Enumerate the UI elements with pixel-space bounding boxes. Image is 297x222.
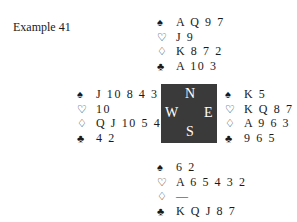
east-hearts-row: ♡K Q 8 7 — [225, 102, 294, 117]
north-clubs: A 10 3 — [176, 59, 218, 74]
west-spades: J 10 8 4 3 — [96, 87, 159, 102]
south-spades: 6 2 — [176, 160, 196, 175]
south-spades-row: ♠6 2 — [157, 160, 247, 175]
north-diamonds: K 8 7 2 — [176, 44, 223, 59]
north-diamonds-row: ♢K 8 7 2 — [157, 44, 225, 59]
diamond-icon: ♢ — [157, 189, 176, 204]
north-clubs-row: ♣A 10 3 — [157, 59, 225, 74]
spade-icon: ♠ — [157, 160, 176, 175]
south-diamonds-row: ♢— — [157, 189, 247, 204]
south-hearts: A 6 5 4 3 2 — [176, 175, 247, 190]
west-clubs: 4 2 — [96, 131, 116, 146]
east-clubs-row: ♣9 6 5 — [225, 131, 294, 146]
spade-icon: ♠ — [77, 87, 96, 102]
diamond-icon: ♢ — [157, 44, 176, 59]
hand-north: ♠A Q 9 7 ♡J 9 ♢K 8 7 2 ♣A 10 3 — [157, 15, 225, 73]
spade-icon: ♠ — [225, 87, 244, 102]
hand-east: ♠K 5 ♡K Q 8 7 ♢A 9 6 3 ♣9 6 5 — [225, 87, 294, 145]
heart-icon: ♡ — [157, 30, 176, 45]
heart-icon: ♡ — [225, 102, 244, 117]
compass-west: W — [165, 105, 178, 121]
east-hearts: K Q 8 7 — [244, 102, 294, 117]
west-spades-row: ♠J 10 8 4 3 — [77, 87, 161, 102]
heart-icon: ♡ — [157, 175, 176, 190]
club-icon: ♣ — [157, 204, 176, 219]
east-diamonds: A 9 6 3 — [244, 116, 290, 131]
north-spades-row: ♠A Q 9 7 — [157, 15, 225, 30]
north-hearts: J 9 — [176, 30, 194, 45]
compass-box: N W E S — [161, 84, 217, 143]
south-hearts-row: ♡A 6 5 4 3 2 — [157, 175, 247, 190]
east-clubs: 9 6 5 — [244, 131, 276, 146]
compass-east: E — [204, 105, 213, 121]
club-icon: ♣ — [157, 59, 176, 74]
hand-west: ♠J 10 8 4 3 ♡10 ♢Q J 10 5 4 ♣4 2 — [77, 87, 161, 145]
heart-icon: ♡ — [77, 102, 96, 117]
spade-icon: ♠ — [157, 15, 176, 30]
west-clubs-row: ♣4 2 — [77, 131, 161, 146]
east-diamonds-row: ♢A 9 6 3 — [225, 116, 294, 131]
south-diamonds: — — [176, 189, 190, 204]
club-icon: ♣ — [77, 131, 96, 146]
south-clubs: K Q J 8 7 — [176, 204, 236, 219]
compass-north: N — [185, 86, 195, 102]
compass-south: S — [186, 124, 194, 140]
diamond-icon: ♢ — [77, 116, 96, 131]
south-clubs-row: ♣K Q J 8 7 — [157, 204, 247, 219]
club-icon: ♣ — [225, 131, 244, 146]
example-title: Example 41 — [13, 20, 71, 35]
east-spades-row: ♠K 5 — [225, 87, 294, 102]
west-hearts-row: ♡10 — [77, 102, 161, 117]
diamond-icon: ♢ — [225, 116, 244, 131]
north-spades: A Q 9 7 — [176, 15, 225, 30]
west-hearts: 10 — [96, 102, 111, 117]
east-spades: K 5 — [244, 87, 266, 102]
west-diamonds: Q J 10 5 4 — [96, 116, 161, 131]
hand-south: ♠6 2 ♡A 6 5 4 3 2 ♢— ♣K Q J 8 7 — [157, 160, 247, 218]
north-hearts-row: ♡J 9 — [157, 30, 225, 45]
west-diamonds-row: ♢Q J 10 5 4 — [77, 116, 161, 131]
